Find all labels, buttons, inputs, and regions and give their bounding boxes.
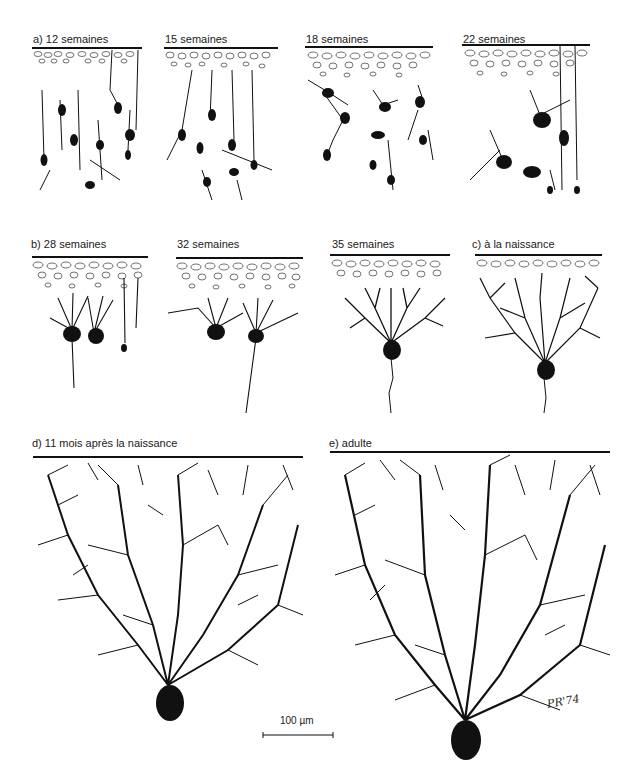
scale-bar: 100 µm bbox=[262, 727, 334, 741]
panel-birth: c) à la naissance bbox=[470, 238, 610, 413]
neuron-drawing bbox=[470, 238, 610, 413]
neuron-drawing bbox=[162, 30, 282, 200]
neuron-drawing bbox=[460, 30, 600, 200]
panel-35-weeks: 35 semaines bbox=[325, 238, 460, 413]
panel-15-weeks: 15 semaines bbox=[162, 30, 282, 200]
scale-bar-line bbox=[262, 731, 334, 739]
neuron-drawing bbox=[303, 30, 438, 200]
panel-12-weeks: a) 12 semaines bbox=[30, 30, 145, 200]
panel-11-months: d) 11 mois après la naissance bbox=[28, 435, 318, 735]
neuron-drawing bbox=[30, 30, 145, 200]
neuron-drawing bbox=[325, 435, 625, 775]
neuron-drawing bbox=[168, 238, 313, 408]
panel-18-weeks: 18 semaines bbox=[303, 30, 438, 200]
panel-32-weeks: 32 semaines bbox=[168, 238, 313, 408]
panel-22-weeks: 22 semaines bbox=[460, 30, 600, 200]
neuron-drawing bbox=[28, 435, 318, 735]
scale-bar-label: 100 µm bbox=[280, 715, 314, 726]
panel-adult: e) adulte PR'74 bbox=[325, 435, 625, 775]
panel-28-weeks: b) 28 semaines bbox=[28, 238, 153, 388]
neuron-drawing bbox=[28, 238, 153, 388]
neuron-drawing bbox=[325, 238, 460, 413]
